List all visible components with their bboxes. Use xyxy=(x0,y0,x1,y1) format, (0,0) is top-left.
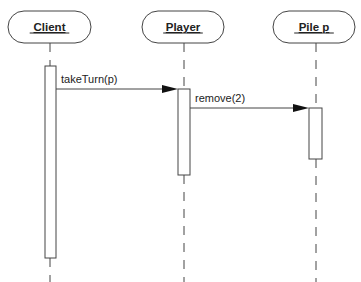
object-pile: Pile p xyxy=(273,11,355,43)
activation-bar-player xyxy=(178,89,190,175)
sequence-diagram: ClientPlayerPile p takeTurn(p)remove(2) xyxy=(0,0,361,282)
message-label: takeTurn(p) xyxy=(61,73,117,85)
object-label: Client xyxy=(34,21,66,33)
object-label: Pile p xyxy=(299,21,330,33)
message-0: takeTurn(p) xyxy=(56,73,178,93)
object-player: Player xyxy=(142,11,224,43)
activation-bar-pile xyxy=(309,108,322,159)
arrowhead-icon xyxy=(293,104,309,112)
message-label: remove(2) xyxy=(195,92,245,104)
arrowhead-icon xyxy=(162,85,178,93)
activation-bar-client xyxy=(45,66,56,258)
object-client: Client xyxy=(8,11,91,43)
object-label: Player xyxy=(166,21,201,33)
message-1: remove(2) xyxy=(190,92,309,112)
